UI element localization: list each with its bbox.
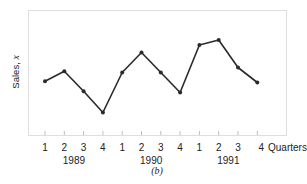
figure-caption: (b) — [151, 165, 163, 177]
x-tick-label: 4 — [177, 142, 183, 153]
x-tick-label: 1 — [42, 142, 48, 153]
x-tick-label: 2 — [62, 142, 68, 153]
year-label: 1989 — [63, 155, 86, 166]
data-point — [255, 81, 259, 85]
year-label: 1991 — [217, 155, 240, 166]
x-axis-title: Quarters — [268, 142, 307, 153]
data-point — [178, 91, 182, 95]
y-axis-title-main: Sales, — [10, 60, 21, 89]
y-axis-title: Sales, x — [10, 55, 21, 89]
x-tick-label: 4 — [100, 142, 106, 153]
x-tick-label: 3 — [158, 142, 164, 153]
y-axis-title-var: x — [11, 55, 21, 61]
x-tick-label: 1 — [197, 142, 203, 153]
data-point — [43, 79, 47, 83]
x-tick-label: 3 — [81, 142, 87, 153]
data-point — [197, 43, 201, 47]
series-group — [43, 38, 259, 115]
x-tick-label: 1 — [119, 142, 125, 153]
chart: 123419891234199012341991 Quarters Sales,… — [0, 0, 307, 184]
data-point — [140, 51, 144, 55]
data-point — [120, 71, 124, 75]
data-point — [217, 38, 221, 42]
data-point — [62, 69, 66, 73]
series-line — [45, 40, 257, 113]
x-tick-label: 4 — [258, 142, 264, 153]
x-tick-label: 2 — [216, 142, 222, 153]
plot-frame — [29, 11, 287, 136]
data-point — [236, 66, 240, 70]
x-tick-label: 2 — [139, 142, 145, 153]
data-point — [82, 89, 86, 93]
data-point — [159, 71, 163, 75]
x-tick-labels: 123419891234199012341991 — [42, 142, 264, 166]
data-point — [101, 111, 105, 115]
x-ticks — [45, 131, 257, 135]
x-tick-label: 3 — [235, 142, 241, 153]
